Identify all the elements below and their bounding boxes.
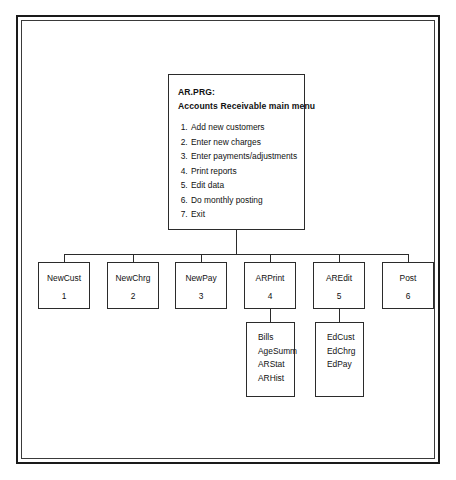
module-number: 6	[383, 290, 433, 303]
module-number: 1	[39, 290, 89, 303]
menu-item[interactable]: Do monthly posting	[190, 193, 295, 207]
module-number: 4	[245, 290, 295, 303]
submodule-item[interactable]: Bills	[258, 331, 294, 345]
root-module-ar-prg[interactable]: AR.PRG: Accounts Receivable main menu Ad…	[168, 74, 305, 230]
module-box-aredit[interactable]: AREdit 5	[313, 262, 365, 309]
connector-drop-arprint	[270, 254, 271, 262]
connector-arprint-to-reports	[270, 309, 271, 322]
module-name: AREdit	[314, 272, 364, 285]
connector-root-stem	[236, 230, 237, 254]
submodule-item[interactable]: ARHist	[258, 372, 294, 386]
connector-drop-newpay	[201, 254, 202, 262]
module-box-post[interactable]: Post 6	[382, 262, 434, 309]
submodule-item[interactable]: EdCust	[327, 331, 363, 345]
submodule-box-aredit-editors[interactable]: EdCust EdChrg EdPay	[315, 322, 364, 397]
menu-item[interactable]: Add new customers	[190, 120, 295, 134]
connector-drop-newcust	[64, 254, 65, 262]
menu-item[interactable]: Exit	[190, 207, 295, 221]
module-number: 3	[176, 290, 226, 303]
connector-drop-aredit	[339, 254, 340, 262]
module-name: Post	[383, 272, 433, 285]
module-number: 2	[108, 290, 158, 303]
module-box-newcust[interactable]: NewCust 1	[38, 262, 90, 309]
module-box-newpay[interactable]: NewPay 3	[175, 262, 227, 309]
module-number: 5	[314, 290, 364, 303]
module-name: NewChrg	[108, 272, 158, 285]
connector-drop-post	[408, 254, 409, 262]
structure-chart-canvas: AR.PRG: Accounts Receivable main menu Ad…	[0, 0, 456, 480]
submodule-item[interactable]: EdChrg	[327, 345, 363, 359]
connector-bus-horizontal	[64, 254, 408, 255]
submodule-item[interactable]: ARStat	[258, 358, 294, 372]
menu-item[interactable]: Enter payments/adjustments	[190, 149, 295, 163]
menu-item[interactable]: Print reports	[190, 164, 295, 178]
root-menu-list: Add new customers Enter new charges Ente…	[178, 120, 295, 221]
connector-drop-newchrg	[133, 254, 134, 262]
root-module-subtitle: Accounts Receivable main menu	[178, 99, 295, 113]
submodule-item[interactable]: EdPay	[327, 358, 363, 372]
module-name: NewPay	[176, 272, 226, 285]
menu-item[interactable]: Edit data	[190, 178, 295, 192]
submodule-item[interactable]: AgeSumm	[258, 345, 294, 359]
module-name: NewCust	[39, 272, 89, 285]
module-box-newchrg[interactable]: NewChrg 2	[107, 262, 159, 309]
connector-aredit-to-editors	[339, 309, 340, 322]
menu-item[interactable]: Enter new charges	[190, 135, 295, 149]
module-box-arprint[interactable]: ARPrint 4	[244, 262, 296, 309]
root-module-title: AR.PRG:	[178, 85, 295, 99]
module-name: ARPrint	[245, 272, 295, 285]
submodule-box-arprint-reports[interactable]: Bills AgeSumm ARStat ARHist	[246, 322, 295, 397]
